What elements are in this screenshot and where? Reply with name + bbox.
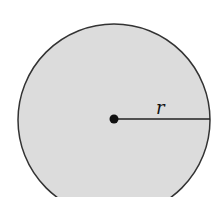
circle [18,24,210,197]
center-dot [110,115,119,124]
circle-diagram: r [0,0,221,197]
radius-label: r [156,97,166,118]
